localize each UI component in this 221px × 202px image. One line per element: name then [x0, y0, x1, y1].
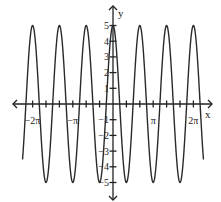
x-tick-label: −2π [25, 115, 41, 126]
y-tick-label: 5 [104, 20, 109, 31]
y-tick-label: 4 [104, 36, 109, 47]
y-tick-label: −4 [98, 161, 109, 172]
y-tick-label: −1 [98, 114, 109, 125]
x-tick-label: π [151, 115, 156, 126]
y-axis-label: y [118, 7, 124, 19]
x-tick-label: 2π [188, 115, 198, 126]
x-axis-label: x [205, 108, 211, 120]
cosine-graph: −2π−ππ2π 54321−1−2−3−4−5 x y [0, 0, 221, 202]
x-tick-label: −π [67, 115, 78, 126]
